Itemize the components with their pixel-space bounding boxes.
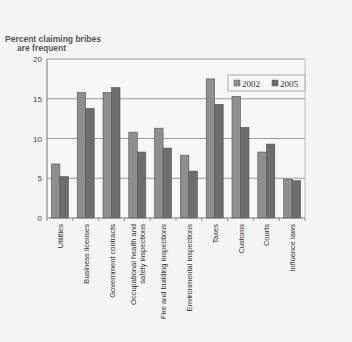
y-tick-label: 20 <box>33 55 42 64</box>
bar-2005 <box>86 108 95 218</box>
y-tick-label: 10 <box>33 135 42 144</box>
x-category-label: Customs <box>237 224 246 254</box>
legend-swatch-2002 <box>234 80 240 86</box>
bar-2002 <box>232 96 241 218</box>
bar-2002 <box>284 179 293 218</box>
x-category-label: safety inspections <box>138 224 147 284</box>
bar-2005 <box>112 88 121 218</box>
x-category-label: Fire and building inspections <box>159 224 168 319</box>
bar-2005 <box>215 104 224 218</box>
bar-2005 <box>189 171 198 218</box>
y-tick-label: 0 <box>38 214 43 223</box>
bar-2005 <box>241 127 250 218</box>
bar-2005 <box>60 177 69 218</box>
y-tick-label: 5 <box>38 174 43 183</box>
x-axis-labels: UtilitiesBusiness licensesGovernment con… <box>56 224 297 319</box>
bar-2002 <box>103 92 112 218</box>
y-axis-ticks: 05101520 <box>33 55 42 223</box>
bar-2005 <box>163 148 172 218</box>
bar-2002 <box>258 152 267 218</box>
legend: 20022005 <box>228 75 305 91</box>
x-category-label: Environmental inspections <box>185 224 194 312</box>
bar-2002 <box>129 132 138 218</box>
y-tick-label: 15 <box>33 95 42 104</box>
legend-swatch-2005 <box>272 80 278 86</box>
legend-label-2005: 2005 <box>280 79 299 89</box>
bar-2002 <box>51 164 60 218</box>
x-category-label: Business licenses <box>82 224 91 284</box>
x-category-label: Taxes <box>211 224 220 244</box>
x-category-label: Utilities <box>56 224 65 248</box>
bar-2002 <box>155 128 164 218</box>
bar-2005 <box>266 144 275 218</box>
x-category-label: Government contracts <box>108 224 117 298</box>
bar-2005 <box>137 152 146 218</box>
x-category-label: Courts <box>262 224 271 246</box>
legend-label-2002: 2002 <box>242 79 260 89</box>
bar-2002 <box>77 92 86 218</box>
x-category-label: Influence laws <box>288 224 297 272</box>
bar-2002 <box>206 79 215 218</box>
bar-2002 <box>180 155 189 218</box>
bar-chart: 05101520 UtilitiesBusiness licensesGover… <box>0 0 352 342</box>
bar-2005 <box>292 181 301 218</box>
